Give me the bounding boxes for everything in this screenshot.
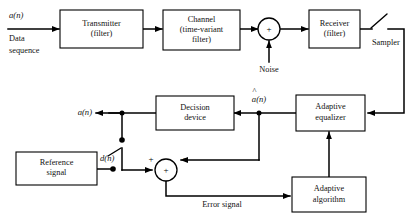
block-diagram-figure: + + + − Transmitter (filter) Channel (ti… — [0, 0, 414, 224]
label-error-signal: Error signal — [202, 200, 242, 209]
block-channel-label-line1: Channel — [188, 15, 216, 24]
block-channel-label-line3: filter) — [192, 35, 211, 44]
diagram-canvas: + + + − Transmitter (filter) Channel (ti… — [0, 0, 414, 224]
block-transmitter-label-line1: Transmitter — [82, 19, 121, 28]
block-channel-label-line2: (time-variant — [180, 25, 224, 34]
block-reference-signal-label-line1: Reference — [40, 158, 74, 167]
wire-error-to-algorithm — [166, 181, 290, 196]
block-adaptive-algorithm-label-line2: algorithm — [313, 195, 346, 204]
label-input-line1: Data — [9, 34, 25, 43]
summing-junction-noise-sign: + — [266, 24, 271, 34]
label-noise: Noise — [259, 65, 279, 74]
terminal-dot-reference — [110, 166, 116, 172]
block-adaptive-equalizer-label-line2: equalizer — [315, 113, 346, 122]
sampler-switch-arm[interactable] — [371, 14, 387, 28]
block-adaptive-equalizer-label-line1: Adaptive — [315, 102, 346, 111]
summing-junction-error-minus-port: − — [182, 153, 187, 163]
block-reference-signal-label-line2: signal — [47, 168, 68, 177]
summing-junction-error-sign: + — [163, 165, 168, 175]
block-transmitter-label-line2: (filter) — [91, 29, 113, 38]
block-decision-device-label-line2: device — [184, 113, 206, 122]
block-decision-device-label-line1: Decision — [180, 103, 210, 112]
junction-dot-decision-out — [120, 111, 125, 116]
label-input-symbol: a(n) — [9, 10, 23, 20]
block-receiver-label-line2: (filter) — [324, 29, 346, 38]
label-sampler: Sampler — [372, 38, 400, 47]
label-input-line2: sequence — [9, 46, 40, 55]
switch-contact-dot — [119, 137, 125, 143]
junction-dot-ahat — [257, 111, 262, 116]
block-adaptive-algorithm-label-line1: Adaptive — [314, 184, 345, 193]
label-output-symbol: a(n) — [78, 107, 92, 117]
label-reference-symbol: d(n) — [100, 153, 114, 163]
summing-junction-error-plus-port: + — [148, 154, 153, 164]
block-receiver-label-line1: Receiver — [320, 19, 350, 28]
